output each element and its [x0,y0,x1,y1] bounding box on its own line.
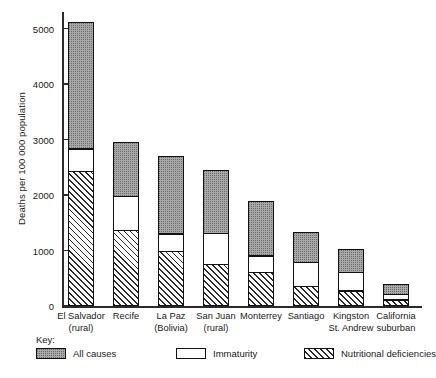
bar-segment-nutritional-deficiencies [159,252,183,305]
legend-item: All causes [36,348,116,359]
bar-segment-all-causes [204,170,228,234]
bar-segment-immaturity [204,234,228,265]
y-tick-label: 1000 [33,245,54,256]
bar-segment-divider [249,255,273,256]
bar-segment-divider [294,286,318,287]
bar-segment-divider [339,290,363,291]
bar-segment-nutritional-deficiencies [384,301,408,305]
bar-segment-divider [114,230,138,231]
legend-item: Immaturity [176,348,257,359]
y-axis-line [62,12,64,306]
bar-segment-nutritional-deficiencies [114,231,138,305]
y-tick-label: 5000 [33,23,54,34]
bar-segment-divider [69,148,93,149]
bar [248,201,274,306]
bar-segment-divider [114,196,138,197]
bar-segment-immaturity [294,263,318,287]
bar-segment-divider [204,233,228,234]
bar-segment-divider [384,294,408,295]
bar [203,170,229,306]
bar [293,232,319,306]
bar [158,156,184,306]
plot-area: 010002000300040005000 El Salvador (rural… [62,12,422,312]
x-axis-line [62,306,422,308]
x-axis-label: California suburban [357,311,435,334]
bar-segment-divider [204,264,228,265]
legend-swatch [176,348,206,359]
bar-segment-immaturity [159,235,183,253]
bar-segment-immaturity [339,273,363,291]
bar-segment-divider [159,251,183,252]
y-tick-label: 2000 [33,190,54,201]
bar-segment-immaturity [114,197,138,231]
legend-swatch [304,348,334,359]
bar-segment-divider [249,272,273,273]
bar-segment-all-causes [69,22,93,150]
bar-segment-nutritional-deficiencies [339,292,363,305]
legend-label: All causes [73,348,116,359]
y-axis-title: Deaths per 100 000 population [16,52,27,266]
bar [338,249,364,306]
y-tick-label: 3000 [33,134,54,145]
bar-segment-immaturity [249,257,273,274]
bar-segment-divider [294,262,318,263]
bar-segment-divider [159,233,183,234]
bar-segment-nutritional-deficiencies [249,273,273,305]
bar-segment-all-causes [114,142,138,197]
bar-segment-nutritional-deficiencies [294,287,318,305]
bar-segment-all-causes [159,156,183,234]
bar [113,142,139,306]
bar-segment-immaturity [69,150,93,172]
legend-label: Immaturity [213,348,257,359]
legend-item: Nutritional deficiencies [304,348,436,359]
legend-label: Nutritional deficiencies [341,348,436,359]
bar-segment-divider [69,171,93,172]
y-tick-label: 4000 [33,79,54,90]
bar-segment-nutritional-deficiencies [204,265,228,305]
legend-title: Key: [36,334,55,345]
bar [383,284,409,306]
bar-segment-all-causes [249,201,273,257]
legend-swatch [36,348,66,359]
bar-segment-all-causes [294,232,318,263]
bar-segment-nutritional-deficiencies [69,172,93,305]
bar-segment-divider [339,272,363,273]
bar-segment-all-causes [339,249,363,273]
y-tick-label: 0 [49,301,54,312]
bar [68,22,94,306]
bar-segment-divider [384,299,408,300]
